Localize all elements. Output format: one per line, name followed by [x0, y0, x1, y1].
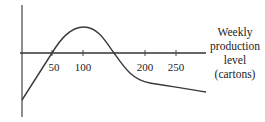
x-axis-title: Weekly production level (cartons) [210, 26, 260, 81]
x-axis-title-line-2: production [210, 40, 260, 53]
x-tick-label: 250 [168, 61, 185, 73]
chart: 50100200250 Weekly production level (car… [0, 0, 265, 122]
x-tick-label: 100 [75, 61, 92, 73]
x-tick-label: 200 [137, 61, 154, 73]
x-axis-title-line-4: (cartons) [215, 68, 256, 81]
x-axis-title-line-3: level [224, 54, 246, 66]
x-tick-labels: 50100200250 [49, 61, 185, 73]
x-tick-label: 50 [49, 61, 61, 73]
chart-svg: 50100200250 Weekly production level (car… [0, 0, 265, 122]
x-axis-title-line-1: Weekly [218, 26, 253, 39]
